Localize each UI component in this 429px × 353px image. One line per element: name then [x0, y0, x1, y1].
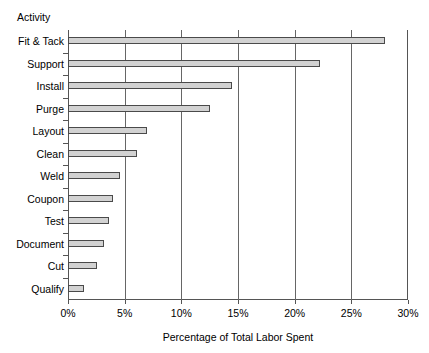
bar: [68, 172, 120, 179]
y-axis-tick: [63, 165, 68, 166]
x-axis-tick: [408, 300, 409, 304]
x-axis-tick: [181, 300, 182, 304]
y-axis-label-fit-tack: Fit & Tack: [0, 35, 64, 47]
y-axis-title: Activity: [17, 11, 50, 24]
bar: [68, 37, 385, 44]
x-axis-tick: [238, 300, 239, 304]
bar-row: [68, 75, 408, 98]
y-axis-tick: [63, 75, 68, 76]
bar-row: [68, 98, 408, 121]
x-axis-title: Percentage of Total Labor Spent: [68, 331, 408, 344]
y-axis-label-purge: Purge: [0, 103, 64, 115]
y-axis-label-coupon: Coupon: [0, 193, 64, 205]
activity-labor-bar-chart: Activity Fit & TackSupportInstallPurgeLa…: [0, 0, 429, 353]
bar-row: [68, 165, 408, 188]
x-axis-tick: [295, 300, 296, 304]
y-axis-label-weld: Weld: [0, 170, 64, 182]
y-axis-tick: [63, 120, 68, 121]
y-axis-category-labels: Fit & TackSupportInstallPurgeLayoutClean…: [0, 30, 64, 300]
x-axis-tick-label: 25%: [341, 307, 362, 319]
y-axis-label-install: Install: [0, 80, 64, 92]
x-axis-tick: [68, 300, 69, 304]
x-axis-tick-label: 5%: [117, 307, 132, 319]
x-axis-tick: [351, 300, 352, 304]
bar-row: [68, 233, 408, 256]
y-axis-tick: [63, 53, 68, 54]
bar: [68, 285, 84, 292]
y-axis-tick: [63, 188, 68, 189]
x-axis-tick-label: 15%: [227, 307, 248, 319]
bar: [68, 60, 320, 67]
bar: [68, 240, 104, 247]
plot-area: 0%5%10%15%20%25%30%: [68, 30, 408, 300]
bar: [68, 105, 210, 112]
bar-row: [68, 120, 408, 143]
y-axis-tick: [63, 233, 68, 234]
bar-row: [68, 210, 408, 233]
bar: [68, 150, 137, 157]
y-axis-label-cut: Cut: [0, 260, 64, 272]
y-axis-tick: [63, 278, 68, 279]
bar-row: [68, 188, 408, 211]
bar: [68, 195, 113, 202]
bar-row: [68, 255, 408, 278]
bar: [68, 217, 109, 224]
bar: [68, 127, 147, 134]
y-axis-tick: [63, 255, 68, 256]
y-axis-label-document: Document: [0, 238, 64, 250]
bar-row: [68, 143, 408, 166]
y-axis-label-support: Support: [0, 58, 64, 70]
x-axis-tick-label: 0%: [60, 307, 75, 319]
bar: [68, 82, 232, 89]
bar-row: [68, 53, 408, 76]
x-axis-tick-label: 30%: [397, 307, 418, 319]
x-axis-tick-label: 10%: [171, 307, 192, 319]
x-axis-tick: [125, 300, 126, 304]
bar: [68, 262, 97, 269]
x-axis-tick-label: 20%: [284, 307, 305, 319]
y-axis-label-test: Test: [0, 215, 64, 227]
y-axis-label-qualify: Qualify: [0, 283, 64, 295]
y-axis-label-layout: Layout: [0, 125, 64, 137]
y-axis-label-clean: Clean: [0, 148, 64, 160]
bar-row: [68, 278, 408, 301]
bar-row: [68, 30, 408, 53]
y-axis-tick: [63, 143, 68, 144]
y-axis-tick: [63, 210, 68, 211]
y-axis-tick: [63, 98, 68, 99]
